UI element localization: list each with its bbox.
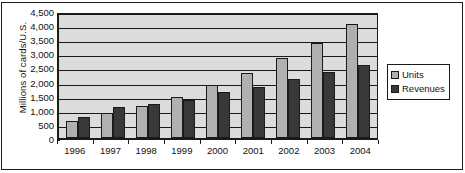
x-axis-tick-mark xyxy=(342,140,343,144)
y-axis-tick-label: 4,000 xyxy=(30,22,54,32)
bar-group xyxy=(61,14,96,138)
bar-units-1998 xyxy=(136,106,148,138)
bar-units-1999 xyxy=(171,97,183,138)
x-axis-tick-label: 1997 xyxy=(93,145,129,156)
y-axis-tick-label: 3,000 xyxy=(30,51,54,61)
legend-swatch-icon xyxy=(391,71,399,79)
x-axis-tick-label: 2001 xyxy=(235,145,271,156)
y-axis-tick-label: 4,500 xyxy=(30,8,54,18)
bar-group xyxy=(305,14,340,138)
bar-group xyxy=(131,14,166,138)
bar-revenues-2003 xyxy=(323,72,335,138)
legend-label: Units xyxy=(402,70,424,80)
x-axis-tick-mark xyxy=(307,140,308,144)
x-axis-tick-label: 2004 xyxy=(342,145,378,156)
bar-group xyxy=(201,14,236,138)
bar-revenues-2000 xyxy=(218,92,230,138)
bar-revenues-1999 xyxy=(183,100,195,138)
x-axis-tick-label: 1996 xyxy=(57,145,93,156)
y-axis-tick-labels: 4,5004,0003,5003,0002,5002,0001,5001,000… xyxy=(26,13,57,140)
bar-revenues-1997 xyxy=(113,107,125,138)
legend-item-units[interactable]: Units xyxy=(391,68,445,82)
y-axis-tick-label: 2,000 xyxy=(30,79,54,89)
y-axis-tick-label: 3,500 xyxy=(30,36,54,46)
x-axis-tick-label: 2000 xyxy=(200,145,236,156)
bar-units-1996 xyxy=(66,121,78,138)
chart-figure: Millions of cards/U.S. 4,5004,0003,5003,… xyxy=(0,0,465,173)
plot-area xyxy=(57,13,378,140)
y-axis-tick-label: 1,500 xyxy=(30,93,54,103)
bar-group xyxy=(340,14,375,138)
x-axis-tick-label: 2003 xyxy=(307,145,343,156)
x-axis-tick-mark xyxy=(235,140,236,144)
bar-revenues-1996 xyxy=(78,117,90,138)
x-axis-tick-mark xyxy=(271,140,272,144)
y-axis-tick-label: 500 xyxy=(38,121,54,131)
bar-units-2004 xyxy=(346,24,358,138)
bar-group xyxy=(235,14,270,138)
x-axis-tick-mark xyxy=(93,140,94,144)
x-axis-tick-label: 1998 xyxy=(128,145,164,156)
bar-revenues-2004 xyxy=(358,65,370,138)
bar-groups xyxy=(59,14,377,138)
y-axis-tick-label: 2,500 xyxy=(30,65,54,75)
x-axis-tick-mark xyxy=(200,140,201,144)
bar-revenues-2001 xyxy=(253,87,265,138)
x-axis-tick-label: 2002 xyxy=(271,145,307,156)
bar-revenues-1998 xyxy=(148,104,160,138)
chart-legend: UnitsRevenues xyxy=(387,64,450,100)
bar-revenues-2002 xyxy=(288,79,300,138)
legend-swatch-icon xyxy=(391,85,399,93)
x-axis-tick-mark xyxy=(378,140,379,144)
bar-units-2003 xyxy=(311,43,323,138)
bar-units-2002 xyxy=(276,58,288,138)
bar-units-2001 xyxy=(241,73,253,138)
bar-group xyxy=(166,14,201,138)
y-axis-tick-label: 1,000 xyxy=(30,107,54,117)
legend-label: Revenues xyxy=(402,84,445,94)
bar-group xyxy=(96,14,131,138)
x-axis-tick-mark xyxy=(128,140,129,144)
x-axis-tick-mark xyxy=(57,140,58,144)
x-axis: 199619971998199920002001200220032004 xyxy=(57,140,378,166)
bar-group xyxy=(270,14,305,138)
bar-units-2000 xyxy=(206,85,218,138)
x-axis-tick-mark xyxy=(164,140,165,144)
y-axis-tick-label: 0 xyxy=(49,135,54,145)
bar-units-1997 xyxy=(101,113,113,138)
legend-item-revenues[interactable]: Revenues xyxy=(391,82,445,96)
x-axis-tick-labels: 199619971998199920002001200220032004 xyxy=(57,145,378,156)
x-axis-tick-label: 1999 xyxy=(164,145,200,156)
